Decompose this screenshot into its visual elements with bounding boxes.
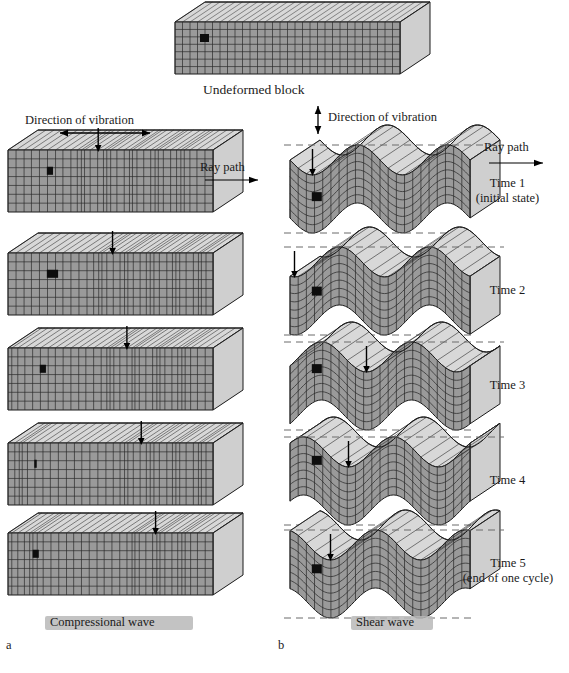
vibration-label-compressional: Direction of vibration — [25, 113, 134, 128]
displacement-marker — [312, 564, 322, 573]
undeformed-marker — [200, 34, 209, 42]
shear-wave-caption: Shear wave — [356, 615, 414, 630]
panel-letter-a: a — [6, 638, 12, 653]
displacement-marker — [312, 456, 322, 465]
double-arrow-vertical-icon — [315, 106, 322, 114]
block-top-face — [8, 423, 243, 443]
time-step-1-label: Time 1 — [455, 176, 560, 191]
block-front-face — [8, 533, 213, 595]
displacement-marker — [312, 287, 322, 296]
time-step-4-label: Time 4 — [455, 473, 560, 488]
shear-side-face — [470, 423, 500, 501]
arrow-right-icon — [249, 177, 258, 183]
displacement-marker — [312, 192, 322, 201]
displacement-marker — [47, 167, 53, 175]
ray-path-label-compressional: Ray path — [200, 160, 245, 175]
vibration-label-shear: Direction of vibration — [328, 110, 437, 125]
panel-letter-b: b — [278, 638, 284, 653]
block-front-face — [8, 443, 213, 505]
arrow-right-icon — [534, 160, 543, 166]
compressional-wave-caption: Compressional wave — [50, 615, 155, 630]
block-front-face — [8, 253, 213, 315]
time-step-5-label: Time 5 — [448, 556, 568, 571]
displacement-marker — [312, 364, 322, 373]
block-front-face — [8, 348, 213, 410]
double-arrow-vertical-icon — [315, 126, 322, 134]
displacement-marker — [34, 460, 36, 468]
time-step-2-label: Time 2 — [455, 283, 560, 298]
undeformed-block-label: Undeformed block — [203, 82, 305, 98]
time-step-1-sub: (initial state) — [455, 191, 560, 206]
block-top-face — [8, 233, 243, 253]
time-step-3-label: Time 3 — [455, 378, 560, 393]
displacement-marker — [33, 550, 39, 558]
displacement-marker — [40, 365, 46, 373]
ray-path-label-shear: Ray path — [484, 140, 529, 155]
seismic-wave-figure: Undeformed block Direction of vibration … — [0, 0, 569, 673]
displacement-marker — [47, 270, 58, 278]
time-step-5-sub: (end of one cycle) — [448, 571, 568, 586]
